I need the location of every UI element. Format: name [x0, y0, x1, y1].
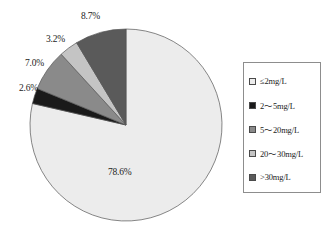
bottom-caption-strip [0, 233, 325, 244]
legend-item-20-30mg: 20～30mg/L [249, 141, 320, 165]
legend-item-gt-30mg: >30mg/L [249, 165, 320, 189]
pie-label-20-30mg: 3.2% [46, 34, 65, 44]
pie-chart-figure: 78.6% 2.6% 7.0% 3.2% 8.7% ≤2mg/L 2～5mg/L… [0, 0, 325, 244]
pie-slice-group [30, 29, 222, 221]
chart-legend: ≤2mg/L 2～5mg/L 5～20mg/L 20～30mg/L >30mg/… [243, 62, 321, 193]
legend-swatch-icon-2-5mg [249, 102, 256, 109]
legend-item-5-20mg: 5～20mg/L [249, 117, 320, 141]
legend-label-5-20mg: 5～20mg/L [260, 123, 299, 135]
legend-swatch-icon-5-20mg [249, 126, 256, 133]
legend-label-gt-30mg: >30mg/L [260, 172, 291, 182]
legend-swatch-icon-gt-30mg [249, 174, 256, 181]
legend-item-2-5mg: 2～5mg/L [249, 93, 320, 117]
legend-swatch-icon-20-30mg [249, 150, 256, 157]
pie-label-le-2mg: 78.6% [108, 167, 132, 177]
pie-label-gt-30mg: 8.7% [81, 11, 100, 21]
legend-label-2-5mg: 2～5mg/L [260, 99, 295, 111]
legend-swatch-icon-le-2mg [249, 78, 256, 85]
legend-item-le-2mg: ≤2mg/L [249, 69, 320, 93]
pie-label-5-20mg: 7.0% [25, 58, 44, 68]
legend-label-le-2mg: ≤2mg/L [260, 76, 286, 86]
legend-label-20-30mg: 20～30mg/L [260, 147, 303, 159]
pie-label-2-5mg: 2.6% [19, 83, 38, 93]
